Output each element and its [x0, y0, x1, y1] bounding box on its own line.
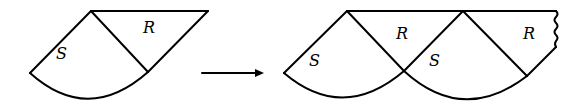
right-s1-arc	[284, 71, 404, 98]
wavy-continuation-edge	[555, 11, 558, 47]
left-r-outer-edge	[148, 11, 208, 72]
right-s2-arc	[404, 71, 527, 99]
arrow-icon	[202, 69, 264, 77]
label-r-left: R	[143, 20, 155, 36]
label-s-left: S	[56, 46, 67, 62]
label-r2-right: R	[523, 26, 535, 42]
diagram-drawing	[0, 0, 581, 110]
left-sector-arc	[30, 72, 148, 99]
right-r2-outer-edge	[527, 47, 556, 76]
left-sector-radius-left	[30, 11, 91, 73]
left-sector-radius-right	[91, 11, 148, 72]
right-s2-radius-right	[463, 11, 527, 76]
diagram-canvas: S R S R S R	[0, 0, 581, 110]
label-s1-right: S	[309, 53, 320, 69]
label-s2-right: S	[429, 53, 440, 69]
right-figure	[284, 11, 558, 99]
label-r1-right: R	[396, 26, 408, 42]
